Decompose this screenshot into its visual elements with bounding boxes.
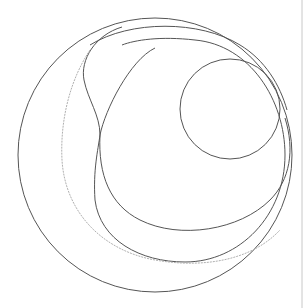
dashed-contour: [62, 50, 280, 263]
top-arc: [90, 26, 287, 110]
middle-contour: [100, 48, 290, 230]
bulb-contour: [83, 27, 285, 262]
nested-circles-diagram: [0, 0, 308, 308]
